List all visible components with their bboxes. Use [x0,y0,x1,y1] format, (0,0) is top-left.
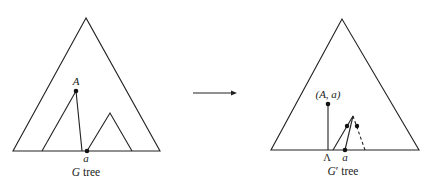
transform-arrow [193,91,237,96]
g-subtree-left-edge [42,91,76,151]
g-tree-caption: G tree [72,166,100,178]
g-tree: A a G tree [13,18,160,178]
subtree-right-dot [355,124,359,128]
g-small-subtree-triangle [87,113,132,151]
g-tree-outer-triangle [13,18,160,151]
node-Aa-dot [326,102,331,107]
arrow-head-icon [231,91,237,96]
g-prime-subtree-dashed-edge [353,116,365,150]
node-a-label: a [83,152,89,164]
node-A-dot [74,89,79,94]
g-prime-subtree-left-edge [333,116,353,150]
g-prime-tree-caption: G′ tree [328,165,359,177]
node-Aa-label: (A, a) [315,88,340,101]
node-A-label: A [72,75,80,87]
node-a-prime-label: a [342,151,348,163]
subtree-left-dot [345,124,349,128]
tree-transformation-diagram: A a G tree (A, a) Λ a G′ tree [0,0,433,189]
lambda-label: Λ [323,152,331,163]
g-subtree-right-edge [76,91,82,151]
g-prime-tree: (A, a) Λ a G′ tree [271,19,419,177]
g-prime-subtree-middle-edge [345,116,353,150]
